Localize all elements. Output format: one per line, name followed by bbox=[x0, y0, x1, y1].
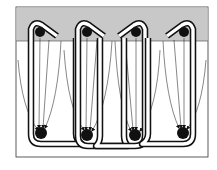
bottom-node-4 bbox=[177, 127, 189, 139]
top-node-2 bbox=[82, 27, 92, 37]
top-node-3 bbox=[131, 27, 141, 37]
top-node-4 bbox=[179, 27, 189, 37]
bottom-node-2 bbox=[81, 129, 93, 141]
bottom-node-1 bbox=[35, 127, 47, 139]
diagram-canvas bbox=[0, 0, 217, 170]
top-node-1 bbox=[35, 27, 45, 37]
bottom-node-3 bbox=[129, 129, 141, 141]
